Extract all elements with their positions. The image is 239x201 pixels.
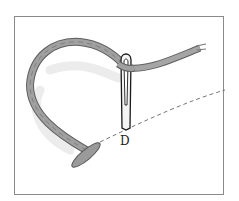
- thread-shadow: [36, 66, 118, 150]
- point-label-d: D: [120, 135, 130, 147]
- stitch-line: [100, 90, 225, 142]
- needle-thread-illustration: [0, 0, 239, 201]
